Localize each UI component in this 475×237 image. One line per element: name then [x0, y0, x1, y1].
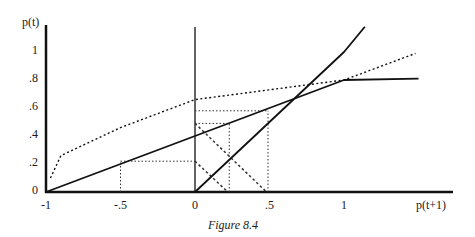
y-tick-label: .4 — [29, 128, 38, 140]
y-tick-label: 0 — [32, 184, 38, 196]
x-tick-label: 1 — [341, 199, 347, 211]
y-tick-label: .6 — [29, 100, 38, 112]
y-axis-title: p(t) — [22, 16, 39, 28]
reference-lines — [121, 111, 269, 192]
series-45-degree-line — [195, 27, 365, 192]
figure-caption: Figure 8.4 — [208, 219, 258, 231]
y-tick-label: .8 — [29, 72, 38, 84]
x-axis-title: p(t+1) — [416, 199, 446, 211]
x-tick-label: 0 — [192, 199, 198, 211]
series-layer — [46, 27, 419, 192]
x-tick-label: -1 — [41, 199, 51, 211]
series-kinked-solid-line — [46, 79, 419, 192]
y-tick-label: .2 — [29, 156, 38, 168]
chart-canvas — [0, 0, 475, 237]
x-tick-label: -.5 — [114, 199, 127, 211]
x-tick-label: .5 — [265, 199, 274, 211]
y-tick-label: 1 — [32, 44, 38, 56]
